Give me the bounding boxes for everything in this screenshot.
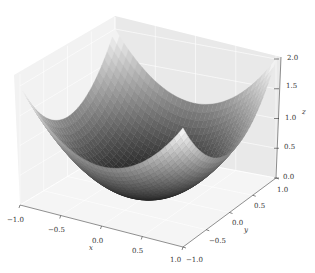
y-tick — [230, 213, 233, 214]
x-tick-label: −0.5 — [48, 226, 65, 234]
x-tick-label: −1.0 — [7, 216, 24, 224]
z-axis-label: z — [301, 108, 306, 116]
y-tick-label: −0.5 — [209, 237, 226, 245]
y-tick-label: 1.0 — [277, 186, 288, 194]
x-tick — [60, 216, 61, 219]
y-tick-label: −1.0 — [186, 256, 203, 264]
x-tick-label: 1.0 — [170, 256, 181, 264]
x-tick — [19, 205, 20, 208]
x-axis-label: x — [89, 244, 93, 252]
x-tick-label: 0.0 — [92, 237, 103, 245]
z-tick-label: 0.0 — [283, 173, 294, 181]
y-tick — [206, 230, 209, 231]
z-tick-label: 0.5 — [284, 143, 295, 151]
x-tick — [182, 247, 183, 250]
x-tick — [101, 226, 102, 229]
y-tick — [253, 195, 256, 196]
x-tick — [141, 237, 142, 240]
z-tick-label: 2.0 — [287, 54, 298, 62]
x-tick-label: 0.5 — [132, 247, 143, 255]
surface-plot: −1.0 −0.5 0.0 0.5 1.0 x −1.0 −0.5 0.0 0.… — [0, 0, 315, 273]
y-axis-label: y — [243, 226, 249, 234]
z-tick-label: 1.0 — [285, 114, 296, 122]
z-tick-label: 1.5 — [286, 82, 297, 90]
y-tick — [183, 247, 186, 248]
y-tick-label: 0.0 — [232, 219, 243, 227]
z-tick-labels: 0.0 0.5 1.0 1.5 2.0 z — [283, 54, 306, 181]
y-tick-label: 0.5 — [254, 202, 265, 210]
